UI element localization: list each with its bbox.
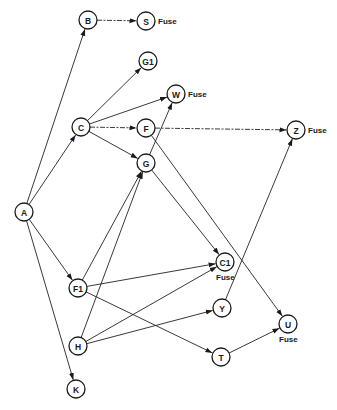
node-label: H: [75, 342, 81, 352]
node-t: T: [212, 348, 230, 366]
node-w: W: [167, 85, 185, 103]
edge-y-to-z: [226, 139, 293, 300]
node-h: H: [69, 337, 87, 355]
node-y: Y: [213, 299, 231, 317]
node-label: C1: [220, 258, 231, 268]
edge-c-to-g: [89, 131, 138, 158]
node-label: G: [143, 159, 150, 169]
node-label: W: [172, 90, 181, 100]
node-label: U: [285, 320, 291, 330]
node-label: F1: [73, 284, 83, 294]
edge-h-to-g: [81, 172, 143, 338]
edge-c-to-g1: [87, 68, 141, 121]
edge-f1-to-t: [86, 292, 212, 353]
node-a: A: [15, 203, 33, 221]
node-label: T: [218, 353, 224, 363]
fuse-label-u: Fuse: [279, 335, 298, 344]
node-k: K: [67, 380, 85, 398]
edge-c-to-w: [90, 97, 168, 124]
edge-a-to-k: [27, 221, 74, 380]
nodes-layer: ABSG1WCFZGC1F1YUHTK: [15, 11, 305, 398]
node-f1: F1: [69, 279, 87, 297]
edge-a-to-f1: [29, 219, 72, 280]
node-label: K: [73, 385, 80, 395]
node-b: B: [79, 11, 97, 29]
edge-a-to-b: [27, 29, 85, 204]
edge-h-to-c1: [86, 267, 217, 342]
node-u: U: [279, 315, 297, 333]
fuse-label-w: Fuse: [188, 90, 207, 99]
edges-layer: [27, 20, 293, 380]
node-c1: C1: [216, 253, 234, 271]
dependency-graph: ABSG1WCFZGC1F1YUHTK FuseFuseFuseFuseFuse: [0, 0, 337, 410]
node-s: S: [137, 12, 155, 30]
node-g1: G1: [139, 52, 157, 70]
node-label: F: [143, 124, 148, 134]
node-c: C: [72, 118, 90, 136]
node-label: Z: [293, 126, 298, 136]
node-g: G: [137, 154, 155, 172]
node-label: C: [78, 123, 84, 133]
edge-t-to-u: [229, 328, 279, 353]
fuse-label-s: Fuse: [158, 17, 177, 26]
fuse-label-z: Fuse: [308, 126, 327, 135]
fuse-label-c1: Fuse: [216, 273, 235, 282]
edge-a-to-c: [29, 135, 76, 205]
node-label: A: [21, 208, 27, 218]
edge-h-to-y: [87, 310, 213, 343]
node-label: S: [143, 17, 149, 27]
fuse-labels-layer: FuseFuseFuseFuseFuse: [158, 17, 327, 344]
node-label: Y: [219, 304, 225, 314]
node-label: G1: [142, 57, 154, 67]
edge-c-to-f: [90, 127, 137, 128]
edge-f-to-u: [151, 135, 282, 316]
edge-f1-to-g: [82, 171, 141, 280]
edge-f-to-z: [155, 128, 287, 130]
edge-f1-to-c1: [87, 264, 216, 287]
node-label: B: [85, 16, 91, 26]
edge-b-to-s: [97, 20, 137, 21]
node-z: Z: [287, 121, 305, 139]
node-f: F: [137, 119, 155, 137]
